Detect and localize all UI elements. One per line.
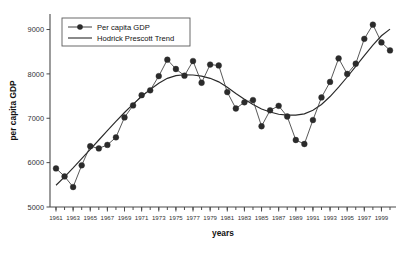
data-point-marker (259, 123, 265, 129)
x-tick-label: 1961 (49, 214, 63, 221)
data-point-marker (147, 87, 153, 93)
data-point-marker (319, 95, 325, 101)
x-tick-label: 1983 (238, 214, 252, 221)
data-point-marker (387, 47, 393, 53)
data-point-marker (130, 103, 136, 109)
data-point-marker (336, 55, 342, 61)
y-axis-title: per capita GDP (8, 80, 18, 140)
data-point-marker (284, 114, 290, 120)
data-point-marker (87, 143, 93, 149)
data-point-marker (79, 162, 85, 168)
data-point-marker (199, 80, 205, 86)
y-axis: 50006000700080009000 (28, 14, 50, 212)
data-point-marker (250, 97, 256, 103)
gdp-series-path (56, 25, 390, 187)
legend-swatch-marker (77, 24, 83, 30)
data-point-marker (216, 63, 222, 69)
data-point-marker (182, 73, 188, 79)
data-point-marker (327, 79, 333, 85)
y-tick-label: 6000 (28, 158, 44, 167)
x-axis-title: years (212, 228, 234, 238)
y-tick-label: 7000 (28, 114, 44, 123)
x-tick-label: 1995 (340, 214, 354, 221)
legend-label-trend: Hodrick Prescott Trend (97, 34, 174, 43)
data-point-marker (207, 62, 213, 68)
trend-line-path (56, 29, 390, 185)
data-point-marker (164, 57, 170, 63)
x-tick-label: 1969 (118, 214, 132, 221)
x-tick-label: 1967 (101, 214, 115, 221)
data-point-marker (310, 117, 316, 123)
x-tick-label: 1963 (66, 214, 80, 221)
x-tick-label: 1975 (169, 214, 183, 221)
x-tick-label: 1989 (289, 214, 303, 221)
x-tick-label: 1973 (152, 214, 166, 221)
y-tick-label: 5000 (28, 203, 44, 212)
x-tick-label: 1993 (323, 214, 337, 221)
legend-label-gdp: Per capita GDP (97, 23, 150, 32)
data-point-marker (353, 61, 359, 67)
x-tick-label: 1981 (221, 214, 235, 221)
data-point-marker (139, 92, 145, 98)
chart-legend: Per capita GDPHodrick Prescott Trend (62, 18, 190, 46)
y-tick-label: 8000 (28, 70, 44, 79)
data-point-marker (113, 134, 119, 140)
data-point-marker (53, 166, 59, 172)
data-point-marker (293, 137, 299, 143)
data-point-marker (370, 22, 376, 28)
chart-container: 5000600070008000900019611963196519671969… (0, 0, 408, 253)
data-point-marker (62, 173, 68, 179)
data-point-marker (190, 58, 196, 64)
data-point-marker (70, 184, 76, 190)
x-tick-label: 1985 (255, 214, 269, 221)
data-point-marker (233, 106, 239, 112)
x-tick-label: 1979 (203, 214, 217, 221)
gdp-trend-chart: 5000600070008000900019611963196519671969… (0, 0, 408, 253)
data-point-marker (301, 141, 307, 147)
x-tick-label: 1977 (186, 214, 200, 221)
data-point-marker (361, 36, 367, 42)
x-tick-label: 1997 (358, 214, 372, 221)
data-point-marker (173, 66, 179, 72)
data-point-marker (104, 142, 110, 148)
data-point-marker (276, 103, 282, 109)
data-point-marker (344, 71, 350, 77)
data-point-marker (156, 73, 162, 79)
x-tick-label: 1999 (375, 214, 389, 221)
x-tick-label: 1971 (135, 214, 149, 221)
x-tick-label: 1987 (272, 214, 286, 221)
x-axis: 1961196319651967196919711973197519771979… (49, 207, 396, 221)
data-point-marker (224, 89, 230, 95)
data-point-marker (96, 146, 102, 152)
data-point-marker (242, 99, 248, 105)
gdp-markers (53, 22, 393, 190)
y-tick-label: 9000 (28, 25, 44, 34)
x-tick-label: 1991 (306, 214, 320, 221)
x-tick-label: 1965 (83, 214, 97, 221)
data-point-marker (122, 114, 128, 120)
data-point-marker (379, 40, 385, 46)
data-point-marker (267, 107, 273, 113)
